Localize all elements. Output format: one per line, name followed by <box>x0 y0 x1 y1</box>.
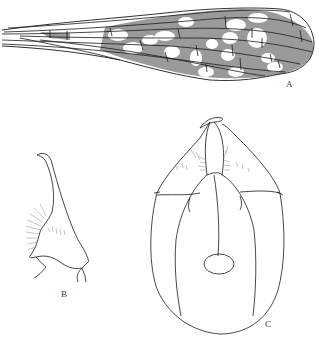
wing-drawing <box>2 8 314 81</box>
genitalia-drawing <box>151 117 284 334</box>
scientific-figure: A B C <box>0 0 319 338</box>
gonostylus-drawing <box>26 153 89 282</box>
panel-label-b: B <box>61 290 67 299</box>
figure-drawing <box>0 0 319 338</box>
panel-label-a: A <box>286 80 293 89</box>
panel-label-c: C <box>265 320 271 329</box>
